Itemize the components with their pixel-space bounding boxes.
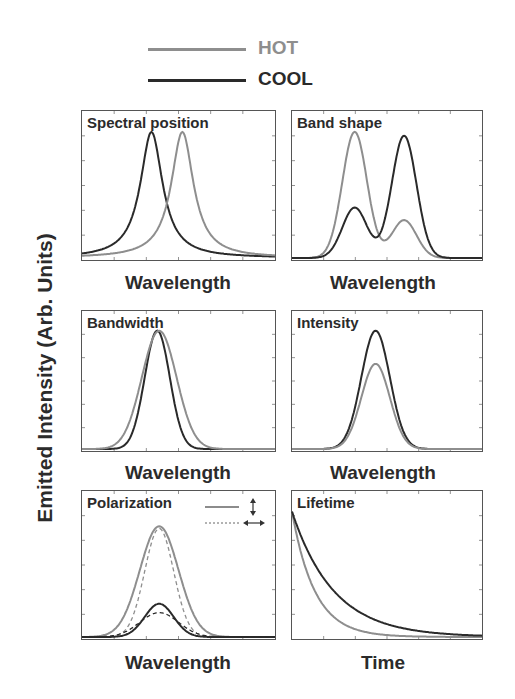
curve-hot bbox=[82, 132, 275, 256]
curve-hot-solid bbox=[82, 526, 275, 637]
legend-label-hot: HOT bbox=[258, 38, 298, 58]
panel-bandwidth: Bandwidth bbox=[81, 310, 276, 452]
polarization-legend bbox=[205, 498, 265, 526]
x-axis-label: Time bbox=[361, 652, 405, 674]
x-axis-label: Wavelength bbox=[125, 272, 231, 294]
plot-area bbox=[292, 111, 482, 260]
x-axis-label: Wavelength bbox=[330, 462, 436, 484]
panel-title: Bandwidth bbox=[87, 314, 164, 331]
x-axis-label: Wavelength bbox=[125, 652, 231, 674]
plot-area bbox=[82, 111, 275, 260]
legend-line-cool bbox=[148, 79, 246, 82]
curve-hot bbox=[292, 132, 482, 258]
panel-title: Polarization bbox=[87, 494, 172, 511]
y-axis-label: Emitted Intensity (Arb. Units) bbox=[33, 233, 57, 522]
plot-area bbox=[292, 491, 482, 639]
plot-area bbox=[82, 491, 275, 639]
panel-polarization: Polarization bbox=[81, 490, 276, 640]
x-axis-label: Wavelength bbox=[330, 272, 436, 294]
panel-title: Spectral position bbox=[87, 114, 209, 131]
x-axis-label: Wavelength bbox=[125, 462, 231, 484]
legend-line-hot bbox=[148, 48, 246, 51]
curve-cool bbox=[292, 512, 482, 636]
curve-cool bbox=[82, 132, 275, 257]
panel-intensity: Intensity bbox=[291, 310, 483, 452]
panel-title: Band shape bbox=[297, 114, 382, 131]
panel-lifetime: Lifetime bbox=[291, 490, 483, 640]
panel-title: Intensity bbox=[297, 314, 359, 331]
curve-hot bbox=[292, 364, 482, 449]
curve-hot-dashed bbox=[82, 528, 275, 637]
panel-title: Lifetime bbox=[297, 494, 355, 511]
plot-area bbox=[292, 311, 482, 451]
legend-label-cool: COOL bbox=[258, 69, 313, 89]
curve-hot bbox=[82, 331, 275, 449]
panel-band-shape: Band shape bbox=[291, 110, 483, 261]
plot-area bbox=[82, 311, 275, 451]
curve-cool bbox=[82, 331, 275, 449]
panel-spectral-position: Spectral position bbox=[81, 110, 276, 261]
